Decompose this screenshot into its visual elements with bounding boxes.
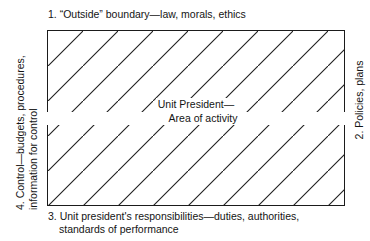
figure-container: 1. “Outside” boundary—law, morals, ethic… <box>0 0 370 241</box>
boundary-label-right: 2. Policies, plans <box>352 10 366 190</box>
boundary-label-top: 1. “Outside” boundary—law, morals, ethic… <box>48 8 348 21</box>
area-of-activity-box <box>47 30 345 206</box>
boundary-label-bottom-line2: standards of performance <box>48 223 363 236</box>
boundary-label-left: 4. Control—budgets, procedures, informat… <box>14 5 44 210</box>
boundary-label-bottom: 3. Unit president's responsibilities—dut… <box>48 210 363 235</box>
boundary-label-bottom-line1: 3. Unit president's responsibilities—dut… <box>48 210 299 222</box>
cut-off-caption-sliver <box>3 0 183 4</box>
boundary-label-left-line2: information for control <box>27 5 40 210</box>
diagonal-hatch-fill <box>48 31 345 206</box>
boundary-label-left-line1: 4. Control—budgets, procedures, <box>14 55 26 210</box>
